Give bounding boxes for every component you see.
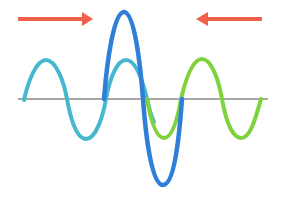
diagram-canvas	[0, 0, 296, 197]
arrow-left-icon	[196, 12, 262, 26]
wave-interference-diagram	[0, 0, 296, 197]
arrow-right-icon	[18, 12, 93, 26]
